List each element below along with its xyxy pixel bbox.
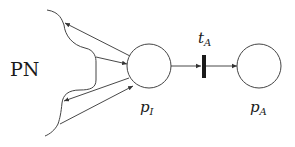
- petri-net-diagram: PN pI pA tA: [0, 0, 295, 147]
- arc-pI-to-pn-lower: [64, 78, 129, 101]
- subnet-boundary: [45, 10, 96, 136]
- subnet-label: PN: [10, 58, 39, 80]
- transition-tA[interactable]: [202, 55, 206, 78]
- arc-pn-to-pI-upper: [96, 57, 127, 64]
- place-pI[interactable]: [127, 44, 171, 88]
- place-pA-label: pA: [250, 98, 267, 117]
- place-pI-label: pI: [140, 98, 155, 117]
- place-pA[interactable]: [237, 44, 281, 88]
- transition-tA-label: tA: [198, 29, 211, 48]
- arc-pI-to-pn-upper: [65, 23, 130, 56]
